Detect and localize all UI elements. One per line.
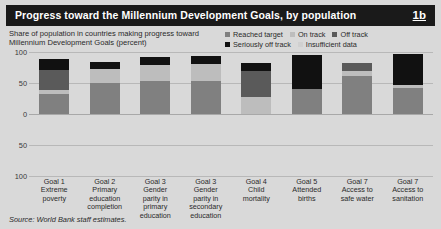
bar-segment[interactable]: [342, 76, 372, 114]
x-tick-label: Goal 5 Attended births: [282, 178, 333, 220]
bar-segment[interactable]: [90, 69, 120, 83]
x-tick-label: Goal 7 Access to safe water: [332, 178, 383, 220]
bar-segment[interactable]: [39, 59, 69, 70]
legend-swatch-insufficient-data: [298, 42, 303, 47]
x-tick-label: Goal 4 Child mortality: [231, 178, 282, 220]
stacked-bar[interactable]: [191, 56, 221, 114]
x-axis-tick-labels: Goal 1 Extreme povertyGoal 2 Primary edu…: [29, 178, 433, 220]
bar-segment[interactable]: [140, 81, 170, 114]
legend-item-off-track[interactable]: Off track: [332, 30, 367, 39]
bar-segment[interactable]: [90, 62, 120, 69]
bar-segment[interactable]: [393, 88, 423, 114]
bar-segment[interactable]: [39, 70, 69, 90]
bar-segment[interactable]: [241, 97, 271, 114]
legend-item-on-track[interactable]: On track: [290, 30, 326, 39]
bar-segment[interactable]: [140, 57, 170, 65]
bar-segment[interactable]: [191, 64, 221, 81]
bar-segment[interactable]: [241, 63, 271, 70]
y-tick-label: 50: [19, 141, 27, 150]
legend-label-reached-target: Reached target: [233, 30, 283, 39]
bar-slot: [231, 52, 282, 176]
bar-segment[interactable]: [393, 54, 423, 85]
x-tick-label: Goal 2 Primary education completion: [80, 178, 131, 220]
bar-slot: [383, 52, 434, 176]
figure-panel: Progress toward the Millennium Developme…: [0, 0, 441, 229]
bar-slot: [181, 52, 232, 176]
figure-title-bar: Progress toward the Millennium Developme…: [6, 5, 435, 26]
chart-legend: Reached target On track Off track Seriou…: [225, 29, 433, 50]
x-tick-label: Goal 3 Gender parity in primary educatio…: [130, 178, 181, 220]
bar-slot: [282, 52, 333, 176]
legend-swatch-reached-target: [225, 32, 230, 37]
bar-slot: [130, 52, 181, 176]
page-title: Progress toward the Millennium Developme…: [15, 5, 356, 26]
x-tick-label: Goal 1 Extreme poverty: [29, 178, 80, 220]
legend-item-reached-target[interactable]: Reached target: [225, 30, 283, 39]
legend-swatch-off-track: [332, 32, 337, 37]
legend-label-seriously-off-track: Seriously off track: [233, 40, 291, 49]
plot-area: [29, 52, 433, 176]
gridline: [29, 176, 433, 177]
stacked-bar[interactable]: [393, 54, 423, 114]
y-tick-label: 0: [23, 110, 27, 119]
stacked-bar[interactable]: [342, 63, 372, 114]
y-tick-label: 50: [19, 79, 27, 88]
chart-header-row: Share of population in countries making …: [6, 26, 435, 50]
bar-segment[interactable]: [140, 65, 170, 81]
legend-label-insufficient-data: Insufficient data: [306, 40, 357, 49]
legend-label-on-track: On track: [298, 30, 326, 39]
y-tick-label: 100: [15, 172, 27, 181]
stacked-bar[interactable]: [292, 55, 322, 114]
stacked-bar[interactable]: [241, 63, 271, 114]
stacked-bar[interactable]: [140, 57, 170, 114]
plot-area-wrapper: 10050050100: [6, 52, 435, 176]
bar-segment[interactable]: [241, 71, 271, 97]
bar-segment[interactable]: [191, 81, 221, 114]
y-axis-tick-labels: 10050050100: [6, 52, 28, 176]
bar-slot: [332, 52, 383, 176]
bar-segment[interactable]: [292, 89, 322, 114]
figure-number-badge: 1b: [413, 5, 426, 26]
bar-segment[interactable]: [292, 55, 322, 89]
bar-slot: [80, 52, 131, 176]
x-tick-label: Goal 3 Gender parity in secondary educat…: [181, 178, 232, 220]
source-note: Source: World Bank staff estimates.: [9, 215, 126, 224]
legend-item-insufficient-data[interactable]: Insufficient data: [298, 40, 357, 49]
legend-label-off-track: Off track: [340, 30, 367, 39]
bar-segment[interactable]: [342, 63, 372, 70]
bar-slot: [29, 52, 80, 176]
y-tick-label: 100: [15, 48, 27, 57]
legend-item-seriously-off-track[interactable]: Seriously off track: [225, 40, 291, 49]
stacked-bar[interactable]: [90, 62, 120, 114]
x-tick-label: Goal 7 Access to sanitation: [383, 178, 434, 220]
bar-group: [29, 52, 433, 176]
stacked-bar[interactable]: [39, 59, 69, 114]
bar-segment[interactable]: [90, 83, 120, 114]
chart-subtitle: Share of population in countries making …: [9, 29, 199, 47]
legend-swatch-on-track: [290, 32, 295, 37]
legend-swatch-seriously-off-track: [225, 42, 230, 47]
bar-segment[interactable]: [191, 56, 221, 64]
bar-segment[interactable]: [39, 94, 69, 114]
